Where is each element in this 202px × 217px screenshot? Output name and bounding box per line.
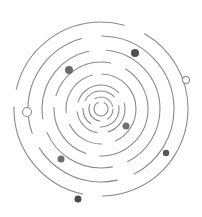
planet-dot-icon — [123, 123, 130, 130]
orbit-ring-8 — [28, 36, 174, 182]
planet-dot-icon — [58, 156, 65, 163]
hollow-planet-dot-icon — [183, 77, 190, 84]
orbit-ring-6 — [54, 62, 148, 156]
orbit-ring-3 — [83, 91, 119, 127]
planet-dot-icon — [75, 196, 82, 203]
hollow-planet-dot-icon — [23, 108, 32, 117]
concentric-orbits-graphic — [0, 0, 202, 217]
planet-dot-icon — [131, 49, 139, 57]
orbit-ring-7 — [42, 50, 160, 168]
orbit-rings — [14, 22, 188, 196]
orbit-ring-2 — [89, 97, 113, 121]
orbit-ring-9 — [14, 22, 188, 196]
planet-dot-icon — [163, 150, 169, 156]
orbit-ring-1 — [94, 102, 108, 116]
planet-dot-icon — [65, 66, 73, 74]
orbit-ring-4 — [77, 85, 125, 133]
